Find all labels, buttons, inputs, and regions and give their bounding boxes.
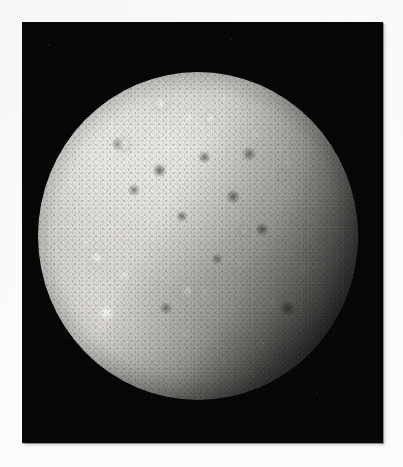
terminator-shadow	[38, 72, 358, 400]
bright-crater-e	[179, 282, 197, 300]
fine-craters-layer	[38, 72, 358, 400]
plate-caption	[0, 0, 1, 1]
subject-name: Callisto	[0, 0, 1, 1]
dark-terrain-band	[96, 151, 339, 289]
scanned-page: Callisto	[0, 0, 403, 467]
callisto-disk	[38, 72, 358, 400]
bright-crater-b	[86, 246, 108, 269]
bright-crater-h	[275, 167, 291, 183]
bright-crater-d	[201, 108, 220, 128]
bright-crater-f	[115, 134, 134, 154]
halftone-texture	[38, 72, 358, 400]
limb-darkening	[38, 72, 358, 400]
bright-crater-a	[92, 298, 121, 328]
callisto-disk-wrapper	[38, 72, 358, 400]
dark-terrain-east	[198, 131, 358, 367]
dust-speck	[230, 38, 232, 40]
dust-speck	[48, 44, 50, 46]
medium-craters-layer	[38, 72, 358, 400]
shadowed-crater-floors-layer	[38, 72, 358, 400]
bright-terrain-north	[76, 98, 217, 210]
bright-crater-c	[150, 92, 172, 115]
photograph-plate	[22, 22, 383, 443]
bright-crater-g	[236, 223, 252, 239]
valhalla-basin	[57, 243, 204, 374]
